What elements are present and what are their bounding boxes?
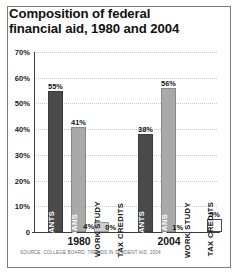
y-axis-line <box>34 52 35 232</box>
gridline-60 <box>34 78 217 79</box>
title-line-2: financial aid, 1980 and 2004 <box>9 21 215 36</box>
title-line-1: Composition of federal <box>9 6 150 21</box>
ytick-label-60: 60% <box>15 73 30 82</box>
ytick-label-20: 20% <box>15 176 30 185</box>
bar-value-1980-grants: 55% <box>48 82 63 91</box>
ytick-label-40: 40% <box>15 125 30 134</box>
bar-series-label-1980-work-study: WORK STUDY <box>93 201 102 257</box>
bar-2004-grants[interactable]: 38% GRANTS <box>138 134 153 232</box>
bar-value-2004-work-study: 1% <box>172 223 183 232</box>
bar-series-label-2004-tax-credits: TAX CREDITS <box>206 202 215 256</box>
bar-value-1980-tax-credits: 0% <box>105 223 116 232</box>
bar-2004-tax-credits[interactable]: 5% TAX CREDITS <box>207 219 222 232</box>
ytick-label-30: 30% <box>15 150 30 159</box>
ytick-label-10: 10% <box>15 202 30 211</box>
bar-value-1980-loans: 41% <box>71 118 86 127</box>
page-title: Composition of federal financial aid, 19… <box>9 6 215 36</box>
plot-area: 70% 60% 50% 40% 30% 20% 10% 0 55% GRANTS… <box>34 52 220 232</box>
gridline-70 <box>34 52 217 53</box>
bar-value-2004-grants: 38% <box>138 125 153 134</box>
bar-1980-tax-credits[interactable]: 0% TAX CREDITS <box>117 232 132 233</box>
bar-1980-loans[interactable]: 41% LOANS <box>71 127 86 232</box>
ytick-label-0: 0 <box>26 228 30 237</box>
bar-2004-work-study[interactable]: 1% WORK STUDY <box>184 229 199 232</box>
bar-2004-loans[interactable]: 56% LOANS <box>161 88 176 232</box>
bar-series-label-2004-work-study: WORK STUDY <box>183 202 192 258</box>
ytick-label-70: 70% <box>15 48 30 57</box>
category-label-2004: 2004 <box>124 236 214 247</box>
category-label-1980: 1980 <box>34 236 124 247</box>
source-note: SOURCE: COLLEGE BOARD, TRENDS IN STUDENT… <box>20 250 161 255</box>
bar-1980-grants[interactable]: 55% GRANTS <box>48 91 63 232</box>
bar-value-2004-loans: 56% <box>161 79 176 88</box>
ytick-label-50: 50% <box>15 99 30 108</box>
